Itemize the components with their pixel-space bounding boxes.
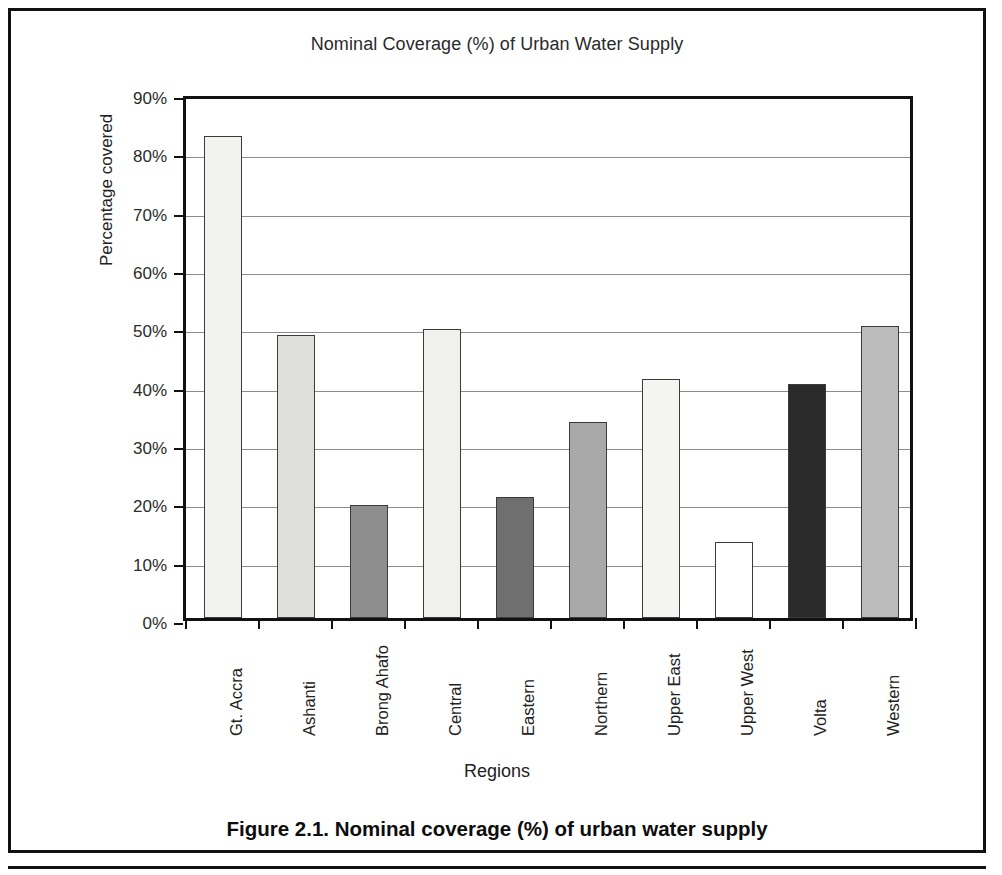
y-tick-label: 30% (133, 439, 167, 459)
x-category-label: Ashanti (300, 681, 319, 736)
x-tick-mark (404, 618, 406, 629)
y-tick-mark (174, 273, 183, 275)
y-tick-label: 0% (142, 614, 167, 634)
x-tick-mark (550, 618, 552, 629)
bar (350, 505, 388, 618)
x-category-label: Volta (811, 699, 830, 736)
y-tick-mark (174, 506, 183, 508)
x-category-label: Western (884, 675, 903, 736)
x-tick-mark (331, 618, 333, 629)
gridline (186, 274, 910, 275)
y-tick-mark (174, 331, 183, 333)
x-tick-mark (842, 618, 844, 629)
gridline (186, 332, 910, 333)
x-axis-title: Regions (11, 761, 983, 782)
x-category-label: Northern (592, 672, 611, 736)
chart-title: Nominal Coverage (%) of Urban Water Supp… (11, 34, 983, 55)
bar (861, 326, 899, 618)
page-bottom-rule (8, 866, 986, 869)
y-tick-label: 80% (133, 147, 167, 167)
y-tick-mark (174, 623, 183, 625)
x-tick-mark (477, 618, 479, 629)
x-tick-mark (623, 618, 625, 629)
y-tick-mark (174, 156, 183, 158)
y-tick-label: 70% (133, 206, 167, 226)
bar (277, 335, 315, 618)
y-tick-label: 20% (133, 497, 167, 517)
bar (496, 497, 534, 618)
y-tick-label: 10% (133, 556, 167, 576)
y-tick-mark (174, 98, 183, 100)
gridline (186, 157, 910, 158)
bar (642, 379, 680, 618)
y-tick-label: 60% (133, 264, 167, 284)
bar (788, 384, 826, 619)
x-category-label: Upper East (665, 653, 684, 736)
y-tick-label: 90% (133, 89, 167, 109)
bar (715, 542, 753, 618)
x-category-label: Gt. Accra (227, 668, 246, 736)
figure-frame: Nominal Coverage (%) of Urban Water Supp… (8, 8, 986, 853)
y-tick-label: 40% (133, 381, 167, 401)
bar (204, 136, 242, 618)
x-category-label: Central (446, 683, 465, 736)
x-tick-mark (185, 618, 187, 629)
bar (423, 329, 461, 618)
y-tick-mark (174, 215, 183, 217)
bar (569, 422, 607, 618)
x-tick-mark (769, 618, 771, 629)
x-tick-mark (258, 618, 260, 629)
y-tick-mark (174, 565, 183, 567)
x-tick-mark (915, 618, 917, 629)
x-tick-mark (696, 618, 698, 629)
x-category-label: Brong Ahafo (373, 645, 392, 736)
gridline (186, 216, 910, 217)
y-tick-label: 50% (133, 322, 167, 342)
y-tick-mark (174, 448, 183, 450)
figure-caption: Figure 2.1. Nominal coverage (%) of urba… (11, 817, 983, 841)
y-axis-title: Percentage covered (97, 114, 117, 266)
x-category-label: Eastern (519, 679, 538, 736)
x-category-label: Upper West (738, 649, 757, 736)
plot-area: 0%10%20%30%40%50%60%70%80%90% (183, 96, 913, 621)
y-tick-mark (174, 390, 183, 392)
